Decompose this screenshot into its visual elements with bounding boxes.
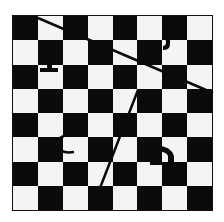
board-square bbox=[63, 40, 88, 64]
board-square bbox=[13, 162, 38, 186]
board-square bbox=[113, 113, 138, 137]
board-square bbox=[13, 89, 38, 113]
board-square bbox=[38, 113, 63, 137]
board-square bbox=[88, 162, 113, 186]
board-square bbox=[38, 40, 63, 64]
chessboard bbox=[12, 15, 213, 211]
board-square bbox=[13, 65, 38, 89]
board-square bbox=[137, 40, 162, 64]
board-square bbox=[187, 40, 212, 64]
board-square bbox=[137, 65, 162, 89]
board-square bbox=[38, 137, 63, 161]
board-square bbox=[88, 186, 113, 210]
board-square bbox=[162, 137, 187, 161]
board-square bbox=[162, 186, 187, 210]
board-square bbox=[187, 89, 212, 113]
board-square bbox=[113, 16, 138, 40]
board-square bbox=[113, 162, 138, 186]
board-square bbox=[162, 16, 187, 40]
board-square bbox=[113, 137, 138, 161]
board-square bbox=[63, 89, 88, 113]
board-square bbox=[113, 186, 138, 210]
board-square bbox=[38, 162, 63, 186]
board-square bbox=[137, 186, 162, 210]
board-square bbox=[38, 186, 63, 210]
board-square bbox=[187, 137, 212, 161]
board-square bbox=[162, 65, 187, 89]
board-square bbox=[88, 40, 113, 64]
board-square bbox=[88, 65, 113, 89]
board-square bbox=[187, 113, 212, 137]
board-square bbox=[162, 113, 187, 137]
board-square bbox=[137, 16, 162, 40]
board-square bbox=[63, 65, 88, 89]
board-square bbox=[162, 162, 187, 186]
board-square bbox=[113, 89, 138, 113]
board-square bbox=[63, 137, 88, 161]
board-square bbox=[88, 16, 113, 40]
board-square bbox=[88, 113, 113, 137]
board-square bbox=[13, 16, 38, 40]
board-square bbox=[137, 113, 162, 137]
board-square bbox=[187, 65, 212, 89]
board-square bbox=[187, 186, 212, 210]
board-square bbox=[63, 113, 88, 137]
board-square bbox=[162, 40, 187, 64]
board-square bbox=[38, 89, 63, 113]
board-square bbox=[13, 113, 38, 137]
board-square bbox=[13, 186, 38, 210]
board-square bbox=[187, 162, 212, 186]
board-square bbox=[38, 65, 63, 89]
board-square bbox=[162, 89, 187, 113]
board-square bbox=[88, 89, 113, 113]
board-square bbox=[137, 137, 162, 161]
board-square bbox=[113, 40, 138, 64]
board-square bbox=[187, 16, 212, 40]
board-square bbox=[13, 40, 38, 64]
board-square bbox=[63, 162, 88, 186]
board-square bbox=[137, 89, 162, 113]
board-square bbox=[63, 16, 88, 40]
board-square bbox=[137, 162, 162, 186]
board-square bbox=[13, 137, 38, 161]
board-square bbox=[113, 65, 138, 89]
board-square bbox=[88, 137, 113, 161]
board-square bbox=[38, 16, 63, 40]
board-square bbox=[63, 186, 88, 210]
